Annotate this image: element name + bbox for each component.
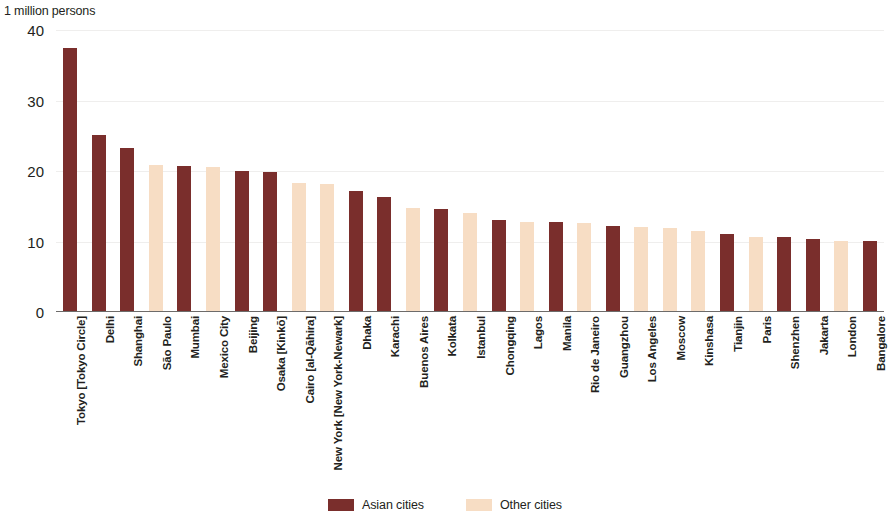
x-label-slot: Shenzhen [770,314,799,484]
bar-slot [370,30,399,311]
bar-slot [855,30,884,311]
bar[interactable] [263,172,277,310]
y-tick-label: 30 [27,92,44,109]
bar-slot [656,30,685,311]
x-label-slot: Osaka [Kinkō] [256,314,285,484]
bar[interactable] [63,48,77,310]
bar[interactable] [320,184,334,311]
bar[interactable] [406,208,420,311]
y-tick-label: 40 [27,22,44,39]
bar-slot [827,30,856,311]
x-label-slot: Tokyo [Tokyo Circle] [56,314,85,484]
bar-slot [85,30,114,311]
y-tick-label: 0 [36,304,44,321]
bar[interactable] [206,167,220,311]
x-label-slot: Lagos [513,314,542,484]
bar-slot [342,30,371,311]
bar[interactable] [149,165,163,310]
y-axis: 010203040 [0,30,50,312]
bar[interactable] [549,222,563,310]
x-label-slot: Beijing [227,314,256,484]
bar[interactable] [492,220,506,311]
legend-item-other[interactable]: Other cities [466,498,562,512]
bar-series [56,30,884,311]
bar-slot [284,30,313,311]
bar[interactable] [120,148,134,310]
bar[interactable] [577,223,591,310]
x-label-slot: Shanghai [113,314,142,484]
bar-slot [427,30,456,311]
x-label-slot: Chongqing [484,314,513,484]
bar[interactable] [92,135,106,311]
bar[interactable] [749,237,763,310]
legend-swatch-icon [466,499,492,511]
bar[interactable] [806,239,820,310]
x-label-slot: Guangzhou [598,314,627,484]
bar[interactable] [377,197,391,311]
bar-slot [456,30,485,311]
x-label-slot: Paris [741,314,770,484]
bar-slot [598,30,627,311]
bar-slot [170,30,199,311]
bar[interactable] [292,183,306,311]
legend-item-asian[interactable]: Asian cities [328,498,424,512]
plot-area [56,30,884,312]
bar[interactable] [863,241,877,310]
x-axis-category-labels: Tokyo [Tokyo Circle]DelhiShanghaiSão Pau… [56,314,884,484]
x-label-slot: Buenos Aires [399,314,428,484]
x-label-slot: Manila [541,314,570,484]
x-label-slot: Los Angeles [627,314,656,484]
x-axis-label: Bangalore [874,316,886,371]
bar-slot [770,30,799,311]
legend-label: Asian cities [362,498,424,512]
bar[interactable] [434,209,448,311]
bar-slot [227,30,256,311]
bar-slot [741,30,770,311]
bar[interactable] [777,237,791,310]
bar-slot [627,30,656,311]
x-label-slot: Istanbul [456,314,485,484]
bar-slot [798,30,827,311]
x-label-slot: Bangalore [855,314,884,484]
chart-legend: Asian citiesOther cities [0,498,890,512]
bar[interactable] [720,234,734,310]
population-bar-chart: 1 million persons 010203040 Tokyo [Tokyo… [0,0,890,521]
bar[interactable] [177,166,191,311]
bar-slot [484,30,513,311]
bar-slot [113,30,142,311]
x-label-slot: São Paulo [142,314,171,484]
x-label-slot: Dhaka [342,314,371,484]
bar-slot [313,30,342,311]
bar-slot [399,30,428,311]
x-label-slot: Moscow [656,314,685,484]
bar-slot [713,30,742,311]
bar-slot [570,30,599,311]
bar[interactable] [834,241,848,311]
x-label-slot: Tianjin [713,314,742,484]
bar-slot [541,30,570,311]
x-label-slot: London [827,314,856,484]
bar-slot [513,30,542,311]
bar[interactable] [520,222,534,311]
x-label-slot: Karachi [370,314,399,484]
x-label-slot: Jakarta [798,314,827,484]
y-tick-label: 20 [27,163,44,180]
bar[interactable] [663,228,677,310]
bar[interactable] [606,226,620,311]
x-label-slot: Cairo [al-Qāhira] [284,314,313,484]
bar[interactable] [691,231,705,311]
x-label-slot: Kinshasa [684,314,713,484]
bar[interactable] [463,213,477,310]
x-label-slot: Kolkata [427,314,456,484]
bar[interactable] [349,191,363,311]
bar-slot [256,30,285,311]
bar[interactable] [235,171,249,311]
x-label-slot: New York [New York-Newark] [313,314,342,484]
x-axis-baseline [56,311,884,313]
legend-swatch-icon [328,499,354,511]
x-label-slot: Rio de Janeiro [570,314,599,484]
bar-slot [684,30,713,311]
x-label-slot: Mumbai [170,314,199,484]
x-label-slot: Delhi [85,314,114,484]
bar[interactable] [634,227,648,310]
